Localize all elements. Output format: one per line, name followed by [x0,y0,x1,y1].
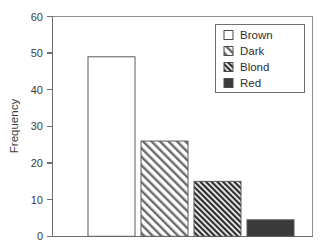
legend-label-red: Red [240,77,261,89]
y-tick-label-10: 10 [31,194,43,206]
y-tick-label-20: 20 [31,157,43,169]
legend-item-red[interactable]: Red [224,77,261,89]
bar-red[interactable] [247,220,294,236]
y-tick-label-30: 30 [31,120,43,132]
y-tick-label-0: 0 [37,230,43,242]
bar-blond[interactable] [194,181,241,236]
y-axis-title: Frequency [8,99,20,154]
y-tick-label-40: 40 [31,84,43,96]
bar-dark[interactable] [141,141,188,236]
legend-label-brown: Brown [240,29,273,41]
legend-item-dark[interactable]: Dark [224,45,265,57]
chart-canvas: 60 50 40 30 20 10 0 Frequency Brown [0,0,327,250]
legend-swatch-brown [224,31,233,40]
bar-chart-figure: 60 50 40 30 20 10 0 Frequency Brown [0,0,327,250]
legend-swatch-blond [224,63,233,72]
legend-item-blond[interactable]: Blond [224,61,269,73]
legend: Brown Dark Blond Red [216,25,305,93]
y-tick-label-60: 60 [31,11,43,23]
legend-swatch-red [224,79,233,88]
y-axis: 60 50 40 30 20 10 0 Frequency [8,11,53,243]
legend-swatch-dark [224,47,233,56]
legend-label-dark: Dark [240,45,265,57]
bar-brown[interactable] [88,57,135,237]
legend-item-brown[interactable]: Brown [224,29,273,41]
y-tick-label-50: 50 [31,47,43,59]
legend-label-blond: Blond [240,61,269,73]
